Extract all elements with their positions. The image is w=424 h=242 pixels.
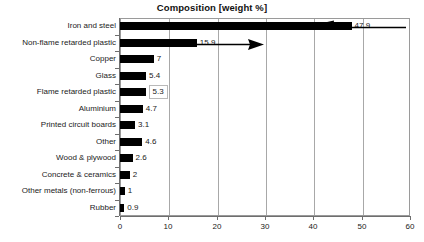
category-label: Iron and steel [0, 21, 116, 31]
x-axis-tick [168, 216, 169, 220]
gridline-30 [266, 19, 267, 215]
category-label: Aluminium [0, 104, 116, 114]
x-axis-tick-label: 60 [395, 222, 424, 231]
category-label: Other [0, 137, 116, 147]
bar-value-label: 5.4 [149, 71, 160, 81]
category-label: Rubber [0, 203, 116, 213]
x-axis-tick-label: 30 [250, 222, 280, 231]
bar [120, 105, 143, 113]
bar-value-label: 1 [128, 186, 132, 196]
y-axis-tick [115, 183, 119, 184]
bar-value-label: 3.1 [138, 120, 149, 130]
y-axis-tick [115, 101, 119, 102]
x-axis-tick [410, 216, 411, 220]
x-axis-tick [120, 216, 121, 220]
bar [120, 154, 133, 162]
bar-value-label: 15.9 [200, 38, 216, 48]
bar [120, 22, 352, 30]
y-axis-tick [115, 150, 119, 151]
category-label: Other metals (non-ferrous) [0, 186, 116, 196]
bar-value-label: 4.6 [145, 137, 156, 147]
category-label: Non-flame retarded plastic [0, 38, 116, 48]
category-label: Wood & plywood [0, 153, 116, 163]
bar-value-label: 2 [133, 170, 137, 180]
x-axis-tick [265, 216, 266, 220]
bar [120, 39, 197, 47]
category-label: Copper [0, 54, 116, 64]
gridline-50 [363, 19, 364, 215]
bar [120, 187, 125, 195]
x-axis-tick [217, 216, 218, 220]
bar-value-label-selected[interactable]: 5.3 [149, 85, 168, 99]
category-label: Printed circuit boards [0, 120, 116, 130]
gridline-10 [169, 19, 170, 215]
x-axis-tick-label: 10 [153, 222, 183, 231]
bar [120, 138, 142, 146]
x-axis-tick-label: 0 [105, 222, 135, 231]
gridline-40 [314, 19, 315, 215]
y-axis-tick [115, 84, 119, 85]
y-axis-tick [115, 167, 119, 168]
bar [120, 121, 135, 129]
x-axis-tick [313, 216, 314, 220]
x-axis-tick-label: 50 [347, 222, 377, 231]
y-axis-tick [115, 35, 119, 36]
bar-value-label: 0.9 [127, 203, 138, 213]
bar [120, 204, 124, 212]
y-axis-tick [115, 51, 119, 52]
y-axis-tick [115, 117, 119, 118]
gridline-20 [218, 19, 219, 215]
category-label: Concrete & ceramics [0, 170, 116, 180]
bar [120, 171, 130, 179]
bar-value-label: 7 [157, 54, 161, 64]
bar-value-label: 47.9 [355, 21, 371, 31]
y-axis-tick [115, 68, 119, 69]
chart-title: Composition [weight %] [0, 2, 424, 13]
bar [120, 88, 146, 96]
bar [120, 72, 146, 80]
x-axis-tick-label: 20 [202, 222, 232, 231]
category-label: Glass [0, 71, 116, 81]
plot-area [120, 18, 410, 216]
y-axis-tick [115, 200, 119, 201]
bar-chart: Composition [weight %] Iron and steel47.… [0, 0, 424, 242]
x-axis-tick-label: 40 [298, 222, 328, 231]
bar-value-label: 2.6 [136, 153, 147, 163]
x-axis-tick [362, 216, 363, 220]
bar [120, 55, 154, 63]
bar-value-label: 4.7 [146, 104, 157, 114]
category-label: Flame retarded plastic [0, 87, 116, 97]
y-axis-tick [115, 216, 119, 217]
y-axis-tick [115, 134, 119, 135]
